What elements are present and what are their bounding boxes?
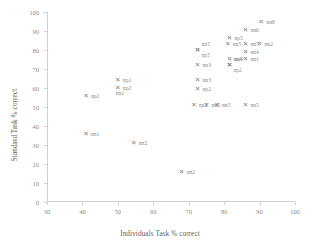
point-marker-x-icon: ✕	[256, 41, 262, 47]
y-tick-label: 0	[36, 199, 39, 206]
point-label: nn1	[91, 131, 99, 137]
x-tick-label: 100	[290, 208, 300, 215]
point-label: nn6	[250, 27, 258, 33]
point-marker-x-icon: ✕	[242, 56, 248, 62]
x-tick-label: 40	[79, 208, 85, 215]
point-label: nn1	[250, 56, 258, 62]
point-label: nn5	[250, 102, 258, 108]
point-marker-x-icon: ✕	[224, 41, 230, 47]
point-label: nn5	[202, 41, 210, 47]
y-tick-mark	[44, 107, 47, 108]
point-marker-x-icon: ✕	[242, 41, 248, 47]
plot-area: 30405060708090100 0102030405060708090100…	[47, 12, 295, 202]
y-tick-label: 80	[33, 47, 39, 54]
y-tick-label: 20	[33, 161, 39, 168]
y-tick-mark	[44, 12, 47, 13]
point-marker-x-icon: ✕	[131, 140, 137, 146]
y-tick-mark	[44, 31, 47, 32]
y-axis-line	[47, 12, 48, 202]
x-tick-label: 80	[221, 208, 227, 215]
point-label: nn2	[187, 169, 195, 175]
point-label: nn3	[203, 62, 211, 68]
scatter-chart: Standard Task % correct 3040506070809010…	[0, 0, 320, 241]
point-marker-x-icon: ✕	[242, 102, 248, 108]
point-label: np1	[123, 77, 131, 83]
y-tick-mark	[44, 126, 47, 127]
x-tick-label: 60	[150, 208, 156, 215]
point-marker-x-icon: ✕	[258, 19, 264, 25]
y-tick-label: 100	[29, 9, 39, 16]
point-label: nn2	[265, 41, 273, 47]
y-tick-mark	[44, 50, 47, 51]
y-tick-mark	[44, 164, 47, 165]
point-label: nn5	[233, 41, 241, 47]
point-label: nn3	[203, 77, 211, 83]
y-tick-label: 30	[33, 142, 39, 149]
point-label: nn5	[222, 102, 230, 108]
x-tick-mark	[224, 202, 225, 205]
point-label: nn8	[266, 19, 274, 25]
point-marker-x-icon: ✕	[194, 86, 200, 92]
x-tick-label: 30	[44, 208, 50, 215]
point-label: nn4	[250, 49, 258, 55]
point-marker-x-icon: ✕	[194, 62, 200, 68]
point-marker-x-icon: ✕	[191, 102, 197, 108]
point-marker-x-icon: ✕	[194, 47, 200, 53]
y-tick-label: 50	[33, 104, 39, 111]
x-tick-label: 70	[186, 208, 192, 215]
x-tick-mark	[153, 202, 154, 205]
x-axis-title: Individuals Task % correct	[0, 230, 320, 238]
x-tick-mark	[260, 202, 261, 205]
point-marker-x-icon: ✕	[214, 102, 220, 108]
y-tick-label: 60	[33, 85, 39, 92]
point-label: nn1	[116, 90, 124, 96]
point-marker-x-icon: ✕	[194, 77, 200, 83]
x-tick-mark	[118, 202, 119, 205]
point-marker-x-icon: ✕	[203, 102, 209, 108]
point-label: np5	[202, 52, 210, 58]
point-label: nn2	[139, 140, 147, 146]
y-tick-mark	[44, 145, 47, 146]
y-tick-mark	[44, 88, 47, 89]
y-tick-mark	[44, 69, 47, 70]
y-tick-label: 10	[33, 180, 39, 187]
x-tick-mark	[189, 202, 190, 205]
y-tick-label: 40	[33, 123, 39, 130]
y-tick-mark	[44, 202, 47, 203]
point-label: nn4	[233, 56, 241, 62]
point-marker-x-icon: ✕	[178, 169, 184, 175]
y-tick-label: 70	[33, 66, 39, 73]
x-tick-mark	[47, 202, 48, 205]
y-axis-title: Standard Task % correct	[11, 55, 19, 195]
x-tick-label: 50	[115, 208, 121, 215]
y-tick-label: 90	[33, 28, 39, 35]
point-marker-x-icon: ✕	[115, 77, 121, 83]
x-tick-mark	[295, 202, 296, 205]
x-tick-label: 90	[256, 208, 262, 215]
point-marker-x-icon: ✕	[242, 27, 248, 33]
point-label: np2	[91, 93, 99, 99]
point-marker-x-icon: ✕	[83, 131, 89, 137]
x-tick-mark	[82, 202, 83, 205]
x-axis-line	[47, 201, 295, 202]
point-label: np2	[203, 86, 211, 92]
y-tick-mark	[44, 183, 47, 184]
point-marker-x-icon: ✕	[242, 49, 248, 55]
point-marker-x-icon: ✕	[226, 62, 232, 68]
point-marker-x-icon: ✕	[83, 93, 89, 99]
point-label: np2	[233, 67, 241, 73]
